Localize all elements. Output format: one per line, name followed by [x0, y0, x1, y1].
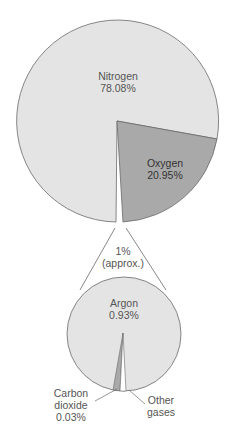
co2-line1: Carbon [46, 387, 96, 399]
other-gases-label: Other gases [140, 394, 182, 418]
approx-value: 1% [95, 245, 151, 257]
co2-label: Carbon dioxide 0.03% [46, 387, 96, 423]
argon-name: Argon [94, 297, 154, 309]
co2-line2: dioxide [46, 399, 96, 411]
approx-note: (approx.) [95, 257, 151, 269]
oxygen-label: Oxygen 20.95% [135, 157, 195, 181]
argon-value: 0.93% [94, 309, 154, 321]
argon-label: Argon 0.93% [94, 297, 154, 321]
other-line1: Other [140, 394, 182, 406]
oxygen-value: 20.95% [135, 169, 195, 181]
co2-value: 0.03% [46, 411, 96, 423]
oxygen-name: Oxygen [135, 157, 195, 169]
approx-label: 1% (approx.) [95, 245, 151, 269]
other-line2: gases [140, 406, 182, 418]
nitrogen-name: Nitrogen [88, 70, 148, 82]
nitrogen-label: Nitrogen 78.08% [88, 70, 148, 94]
co2-leader [95, 389, 117, 401]
nitrogen-value: 78.08% [88, 82, 148, 94]
pie-charts [0, 0, 233, 441]
